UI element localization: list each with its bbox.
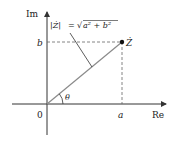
- b-label: b: [37, 38, 43, 48]
- a-label: a: [118, 110, 123, 120]
- angle-arc: [59, 94, 63, 104]
- real-axis-label: Re: [152, 110, 164, 120]
- modulus-eq: =: [68, 21, 75, 30]
- complex-plane-diagram: Im Re 0 b a Ż θ |Ż| = √ a² + b²: [0, 0, 178, 143]
- point-z: [120, 40, 124, 44]
- annotation-leader: [70, 33, 92, 67]
- modulus-lhs: |Ż|: [50, 21, 61, 30]
- vector-line: [47, 42, 122, 104]
- origin-label: 0: [37, 110, 43, 120]
- modulus-rhs: a² + b²: [83, 21, 111, 30]
- imaginary-axis-label: Im: [26, 9, 39, 19]
- point-z-label: Ż: [125, 37, 133, 48]
- theta-label: θ: [65, 93, 70, 102]
